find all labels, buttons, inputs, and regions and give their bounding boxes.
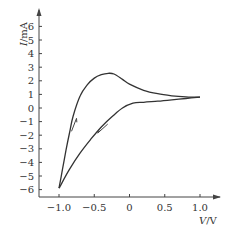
axes	[37, 8, 222, 200]
y-tick-label: −3	[19, 143, 34, 154]
series-reverse-sweep	[59, 97, 200, 188]
y-tick-label: 0	[28, 103, 34, 114]
y-tick-label: 2	[28, 75, 34, 86]
x-tick-label: 1.0	[192, 202, 208, 213]
y-tick-label: −4	[19, 157, 34, 168]
y-tick-label: 4	[28, 48, 34, 59]
x-axis-title: V/V	[199, 215, 218, 226]
x-tick-label: −0.5	[82, 202, 106, 213]
x-tick-label: −1.0	[47, 202, 71, 213]
y-tick-label: 1	[28, 89, 34, 100]
x-tick-label: 0.5	[157, 202, 173, 213]
cv-chart: 6543210−1−2−3−4−5−6 −1.0−0.500.51.0 I/mA…	[0, 0, 231, 235]
y-tick-label: −1	[19, 116, 34, 127]
y-axis-arrowhead	[37, 8, 42, 16]
y-tick-label: 3	[28, 62, 34, 73]
y-tick-label: −2	[19, 130, 34, 141]
y-tick-label: −5	[19, 171, 34, 182]
series-forward-sweep	[59, 73, 200, 188]
x-axis-unit: /V	[206, 215, 217, 226]
y-axis-unit: /mA	[18, 21, 29, 42]
y-tick-label: −6	[19, 184, 34, 195]
x-axis-arrowhead	[213, 195, 221, 200]
curves	[59, 73, 200, 188]
y-axis-title: I/mA	[18, 21, 29, 47]
x-tick-label: 0	[126, 202, 132, 213]
